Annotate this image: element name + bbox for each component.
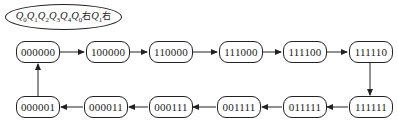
register-label: Q0Q1Q2Q3Q4Q0右Q1右 bbox=[16, 9, 112, 24]
state-node: 000011 bbox=[84, 96, 128, 118]
state-node: 000001 bbox=[16, 96, 60, 118]
state-node: 000111 bbox=[149, 96, 193, 118]
state-node: 111100 bbox=[283, 41, 327, 63]
state-node: 011111 bbox=[283, 96, 327, 118]
state-node: 100000 bbox=[86, 41, 130, 63]
register-label-ellipse: Q0Q1Q2Q3Q4Q0右Q1右 bbox=[5, 4, 122, 30]
state-node: 110000 bbox=[149, 41, 193, 63]
state-node: 111110 bbox=[349, 41, 393, 63]
state-node: 000000 bbox=[16, 41, 60, 63]
state-node: 111111 bbox=[349, 96, 393, 118]
state-node: 111000 bbox=[219, 41, 263, 63]
state-node: 001111 bbox=[217, 96, 261, 118]
